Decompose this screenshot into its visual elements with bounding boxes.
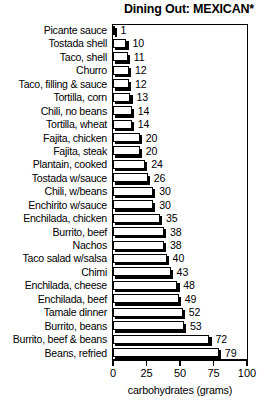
bar-body bbox=[113, 173, 148, 182]
bar-body bbox=[113, 241, 164, 250]
category-label: Chili, no beans bbox=[41, 105, 107, 118]
bar bbox=[113, 120, 132, 129]
bar-value-label: 48 bbox=[183, 279, 195, 292]
bar bbox=[113, 241, 164, 250]
category-label: Tortilla, wheat bbox=[46, 118, 107, 131]
bar-body bbox=[113, 93, 130, 102]
bar-shadow bbox=[115, 28, 117, 37]
bar-value-label: 40 bbox=[173, 252, 185, 265]
bar bbox=[113, 52, 128, 61]
bar bbox=[113, 214, 160, 223]
category-label: Taco salad w/salsa bbox=[23, 252, 107, 265]
bar bbox=[113, 267, 171, 276]
bar-chart: Dining Out: MEXICAN* Picante sauce1Tosta… bbox=[0, 0, 266, 413]
chart-title: Dining Out: MEXICAN* bbox=[112, 2, 266, 16]
bar-row: Chili, w/beans30 bbox=[0, 185, 266, 198]
bar-row: Taco salad w/salsa40 bbox=[0, 252, 266, 265]
bar bbox=[113, 93, 130, 102]
bar-body bbox=[113, 146, 140, 155]
bar-value-label: 26 bbox=[154, 172, 166, 185]
bar bbox=[113, 335, 209, 344]
bar-row: Beans, refried79 bbox=[0, 347, 266, 360]
bar-value-label: 38 bbox=[170, 226, 182, 239]
bar-row: Plantain, cooked24 bbox=[0, 158, 266, 171]
bar-value-label: 30 bbox=[159, 185, 171, 198]
bar-value-label: 20 bbox=[146, 132, 158, 145]
bar bbox=[113, 146, 140, 155]
bar-value-label: 13 bbox=[136, 91, 148, 104]
bar-row: Picante sauce1 bbox=[0, 24, 266, 37]
bar-body bbox=[113, 335, 209, 344]
category-label: Enchilada, beef bbox=[38, 293, 107, 306]
bar-row: Tostada w/sauce26 bbox=[0, 172, 266, 185]
bar bbox=[113, 39, 126, 48]
bar-row: Chili, no beans14 bbox=[0, 105, 266, 118]
bar-body bbox=[113, 26, 115, 35]
x-tick-label: 25 bbox=[140, 367, 152, 379]
category-label: Picante sauce bbox=[44, 24, 107, 37]
category-label: Beans, refried bbox=[45, 347, 107, 360]
bar-body bbox=[113, 200, 153, 209]
bar-body bbox=[113, 348, 219, 357]
bar bbox=[113, 348, 219, 357]
x-axis-title: carbohydrates (grams) bbox=[112, 384, 248, 396]
bar-row: Enchilada, chicken35 bbox=[0, 212, 266, 225]
bar-body bbox=[113, 267, 171, 276]
bar-value-label: 49 bbox=[185, 293, 197, 306]
bar-value-label: 30 bbox=[159, 199, 171, 212]
category-label: Burrito, beef & beans bbox=[13, 333, 107, 346]
bar-row: Fajita, chicken20 bbox=[0, 132, 266, 145]
x-tick-mark bbox=[246, 361, 248, 366]
bar-row: Tamale dinner52 bbox=[0, 306, 266, 319]
bar-row: Fajita, steak20 bbox=[0, 145, 266, 158]
bar bbox=[113, 308, 183, 317]
bar bbox=[113, 173, 148, 182]
category-label: Fajita, steak bbox=[53, 145, 107, 158]
bar-body bbox=[113, 160, 145, 169]
bar-value-label: 79 bbox=[225, 347, 237, 360]
x-tick-label: 75 bbox=[207, 367, 219, 379]
bar bbox=[113, 133, 140, 142]
bar bbox=[113, 79, 129, 88]
bar bbox=[113, 281, 177, 290]
bar-body bbox=[113, 79, 129, 88]
bar-body bbox=[113, 281, 177, 290]
x-tick-mark bbox=[179, 361, 181, 366]
x-tick-mark bbox=[213, 361, 215, 366]
category-label: Taco, shell bbox=[60, 51, 107, 64]
bar-row: Enchilada, beef49 bbox=[0, 293, 266, 306]
bar bbox=[113, 227, 164, 236]
bar-value-label: 52 bbox=[189, 306, 201, 319]
bar-value-label: 53 bbox=[190, 320, 202, 333]
bar-row: Tostada shell10 bbox=[0, 37, 266, 50]
bar-body bbox=[113, 254, 167, 263]
category-label: Taco, filling & sauce bbox=[19, 78, 107, 91]
bar bbox=[113, 254, 167, 263]
x-tick-label: 0 bbox=[110, 367, 116, 379]
bar-value-label: 14 bbox=[138, 105, 150, 118]
bar-row: Burrito, beans53 bbox=[0, 320, 266, 333]
bar bbox=[113, 160, 145, 169]
category-label: Churro bbox=[76, 64, 107, 77]
bar-value-label: 10 bbox=[132, 37, 144, 50]
bar-body bbox=[113, 294, 179, 303]
bar bbox=[113, 294, 179, 303]
bar-body bbox=[113, 39, 126, 48]
bar-row: Taco, shell11 bbox=[0, 51, 266, 64]
category-label: Chimi bbox=[81, 266, 107, 279]
bar-body bbox=[113, 106, 132, 115]
bar-row: Burrito, beef38 bbox=[0, 226, 266, 239]
bar-body bbox=[113, 52, 128, 61]
bar-body bbox=[113, 308, 183, 317]
category-label: Fajita, chicken bbox=[43, 132, 107, 145]
category-label: Tortilla, corn bbox=[53, 91, 107, 104]
bar bbox=[113, 321, 184, 330]
bar-row: Taco, filling & sauce12 bbox=[0, 78, 266, 91]
bar-body bbox=[113, 187, 153, 196]
bar-value-label: 12 bbox=[135, 78, 147, 91]
bar-row: Chimi43 bbox=[0, 266, 266, 279]
bar-value-label: 43 bbox=[177, 266, 189, 279]
bar-body bbox=[113, 214, 160, 223]
bar-row: Nachos38 bbox=[0, 239, 266, 252]
bar-value-label: 38 bbox=[170, 239, 182, 252]
